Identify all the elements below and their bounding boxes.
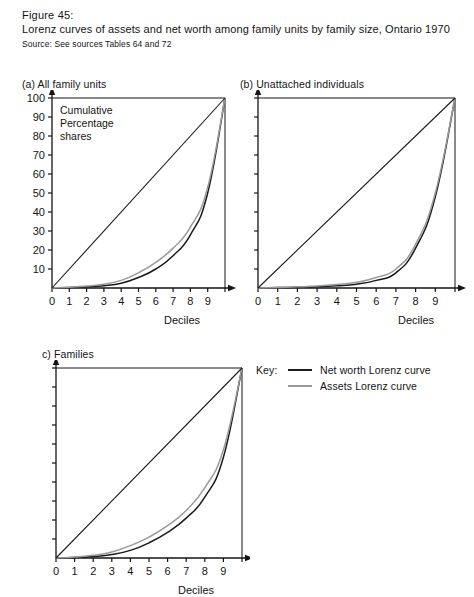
x-axis-tick-label: 5	[146, 565, 152, 577]
legend: Key: Net worth Lorenz curve Assets Loren…	[256, 362, 474, 394]
x-axis-tick-label: 7	[183, 565, 189, 577]
y-axis-tick-label: 80	[33, 130, 45, 142]
x-axis-tick-label: 4	[127, 565, 133, 577]
plot-annotation-line: shares	[60, 130, 92, 142]
x-axis-tick-label: 9	[220, 565, 226, 577]
x-axis-tick-label: 2	[84, 295, 90, 307]
legend-label-net-worth: Net worth Lorenz curve	[320, 364, 431, 376]
figure-header: Figure 45: Lorenz curves of assets and n…	[22, 8, 462, 51]
y-axis-tick-label: 20	[33, 244, 45, 256]
x-axis-tick-label: 7	[170, 295, 176, 307]
x-axis-tick-label: 8	[187, 295, 193, 307]
chart-panel-b: (b) Unattached individuals 0123456789Dec…	[236, 78, 474, 328]
x-axis-tick-label: 2	[294, 295, 300, 307]
figure-number: Figure 45:	[22, 8, 462, 22]
x-axis-tick-label: 1	[72, 565, 78, 577]
y-axis-tick-label: 50	[33, 187, 45, 199]
legend-label-assets: Assets Lorenz curve	[320, 380, 417, 392]
y-axis-arrow-icon	[255, 90, 261, 95]
y-axis-tick-label: 70	[33, 149, 45, 161]
x-axis-tick-label: 8	[202, 565, 208, 577]
x-axis-tick-label: 8	[413, 295, 419, 307]
x-axis-tick-label: 9	[432, 295, 438, 307]
line-of-equality	[258, 98, 455, 288]
panel-b-plot: 0123456789Deciles	[236, 90, 474, 328]
x-axis-tick-label: 6	[373, 295, 379, 307]
x-axis-title: Deciles	[178, 584, 215, 596]
x-axis-tick-label: 5	[135, 295, 141, 307]
y-axis-tick-label: 40	[33, 206, 45, 218]
x-axis-tick-label: 4	[334, 295, 340, 307]
legend-title: Key:	[256, 364, 288, 376]
y-axis-arrow-icon	[49, 90, 55, 95]
x-axis-tick-label: 6	[153, 295, 159, 307]
chart-panel-a: (a) All family units 1020304050607080901…	[0, 78, 238, 328]
x-axis-tick-label: 5	[353, 295, 359, 307]
legend-swatch-net-worth-icon	[288, 369, 312, 371]
x-axis-tick-label: 0	[49, 295, 55, 307]
legend-row-assets: Assets Lorenz curve	[256, 378, 474, 394]
y-axis-arrow-icon	[53, 360, 59, 365]
x-axis-tick-label: 2	[90, 565, 96, 577]
x-axis-tick-label: 4	[118, 295, 124, 307]
chart-panel-c: c) Families 0123456789Deciles	[0, 348, 250, 597]
y-axis-tick-label: 100	[27, 92, 45, 104]
legend-row-net-worth: Key: Net worth Lorenz curve	[256, 362, 474, 378]
y-axis-tick-label: 60	[33, 168, 45, 180]
figure-source: Source: See sources Tables 64 and 72	[22, 38, 462, 51]
x-axis-arrow-icon	[245, 555, 250, 561]
x-axis-tick-label: 1	[275, 295, 281, 307]
x-axis-tick-label: 1	[66, 295, 72, 307]
x-axis-tick-label: 0	[255, 295, 261, 307]
x-axis-tick-label: 6	[165, 565, 171, 577]
x-axis-tick-label: 3	[314, 295, 320, 307]
panel-c-plot: 0123456789Deciles	[0, 360, 250, 597]
x-axis-tick-label: 0	[53, 565, 59, 577]
x-axis-tick-label: 3	[101, 295, 107, 307]
panel-a-plot: 1020304050607080901000123456789DecilesCu…	[0, 90, 238, 328]
x-axis-title: Deciles	[398, 314, 435, 326]
legend-swatch-assets-icon	[288, 385, 312, 387]
line-of-equality	[56, 368, 242, 558]
x-axis-arrow-icon	[228, 285, 236, 291]
x-axis-tick-label: 3	[109, 565, 115, 577]
y-axis-tick-label: 90	[33, 111, 45, 123]
y-axis-tick-label: 10	[33, 263, 45, 275]
x-axis-arrow-icon	[458, 285, 466, 291]
x-axis-tick-label: 9	[205, 295, 211, 307]
plot-annotation-line: Percentage	[60, 117, 114, 129]
x-axis-tick-label: 7	[393, 295, 399, 307]
x-axis-title: Deciles	[164, 314, 201, 326]
figure-title: Lorenz curves of assets and net worth am…	[22, 22, 460, 36]
y-axis-tick-label: 30	[33, 225, 45, 237]
plot-annotation-line: Cumulative	[60, 104, 113, 116]
